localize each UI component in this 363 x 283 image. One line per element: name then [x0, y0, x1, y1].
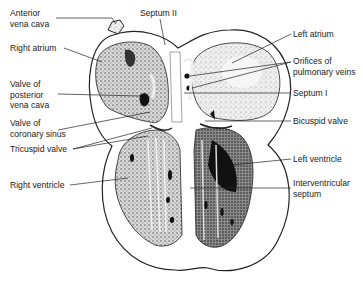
pulmonary-vein-orifice-1 [184, 73, 189, 78]
label-anterior-vena-cava: Anterior vena cava [10, 8, 49, 29]
label-valve-posterior-vena-cava: Valve of posterior vena cava [10, 79, 49, 111]
anterior-vena-cava-shape [108, 20, 124, 34]
label-septum-i: Septum I [293, 88, 327, 99]
label-septum-ii: Septum II [140, 8, 177, 19]
label-bicuspid-valve: Bicuspid valve [293, 116, 348, 127]
label-orifices-pulmonary-veins: Orifices of pulmonary veins [293, 56, 356, 77]
label-interventricular-septum: Interventricular septum [293, 178, 350, 199]
label-left-atrium: Left atrium [293, 29, 334, 40]
label-right-ventricle: Right ventricle [10, 180, 64, 191]
label-right-atrium: Right atrium [10, 43, 56, 54]
label-tricuspid-valve: Tricuspid valve [10, 144, 67, 155]
label-left-ventricle: Left ventricle [293, 154, 342, 165]
label-valve-coronary-sinus: Valve of coronary sinus [10, 118, 66, 139]
